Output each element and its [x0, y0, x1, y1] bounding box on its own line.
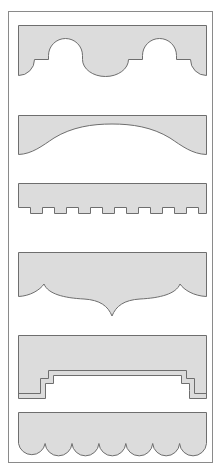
scalloped-edge-profile [19, 413, 207, 456]
valance-profiles-diagram [0, 0, 222, 470]
